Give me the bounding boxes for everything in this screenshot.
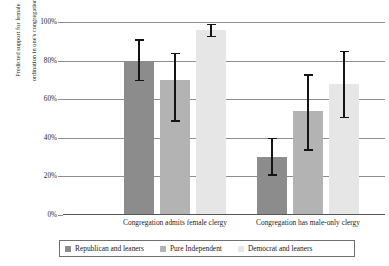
legend-swatch [238, 246, 244, 252]
error-bar-cap-lower [340, 117, 349, 118]
y-axis-tick-label: 60% [11, 95, 57, 103]
error-bar-cap-upper [304, 74, 313, 75]
y-axis-tick-label: 0% [11, 211, 57, 219]
legend-item: Republican and leaners [65, 244, 144, 253]
legend-label: Pure Independent [170, 244, 222, 253]
y-axis-title-line-2: ordination in one's congregation [30, 0, 38, 81]
error-bar-cap-upper [340, 51, 349, 52]
error-bar-cap-upper [135, 39, 144, 40]
legend-swatch [160, 246, 166, 252]
legend-label: Republican and leaners [75, 244, 144, 253]
error-bar-line [138, 39, 139, 80]
x-axis-baseline [63, 214, 385, 215]
y-axis-tick-label: 80% [11, 56, 57, 64]
bars-layer [63, 22, 385, 215]
error-bar-line [343, 51, 344, 117]
bar-chart-figure: Predicted support for female ordination … [0, 0, 389, 266]
error-bar-cap-lower [135, 80, 144, 81]
x-axis-label-group-2: Congregation has male-only clergy [256, 218, 360, 227]
error-bar-cap-upper [207, 24, 216, 25]
y-axis-tick-mark [58, 215, 63, 216]
legend-swatch [65, 246, 71, 252]
y-axis-tick-label: 40% [11, 133, 57, 141]
chart-legend: Republican and leanersPure IndependentDe… [59, 240, 355, 257]
error-bar-line [307, 74, 308, 149]
error-bar-cap-lower [268, 174, 277, 175]
legend-item: Democrat and leaners [238, 244, 312, 253]
error-bar-cap-lower [304, 149, 313, 150]
error-bar-line [210, 24, 211, 36]
bar [124, 61, 154, 215]
legend-item: Pure Independent [160, 244, 222, 253]
x-axis-label-group-1: Congregation admits female clergy [123, 218, 227, 227]
error-bar-cap-lower [171, 120, 180, 121]
plot-area: 0%20%40%60%80%100% [63, 22, 385, 215]
error-bar-cap-upper [268, 138, 277, 139]
y-axis-tick-label: 100% [11, 18, 57, 26]
bar [196, 30, 226, 215]
error-bar-cap-lower [207, 36, 216, 37]
error-bar-cap-upper [171, 53, 180, 54]
error-bar-line [271, 138, 272, 175]
legend-label: Democrat and leaners [248, 244, 312, 253]
error-bar-line [174, 53, 175, 121]
y-axis-tick-label: 20% [11, 172, 57, 180]
